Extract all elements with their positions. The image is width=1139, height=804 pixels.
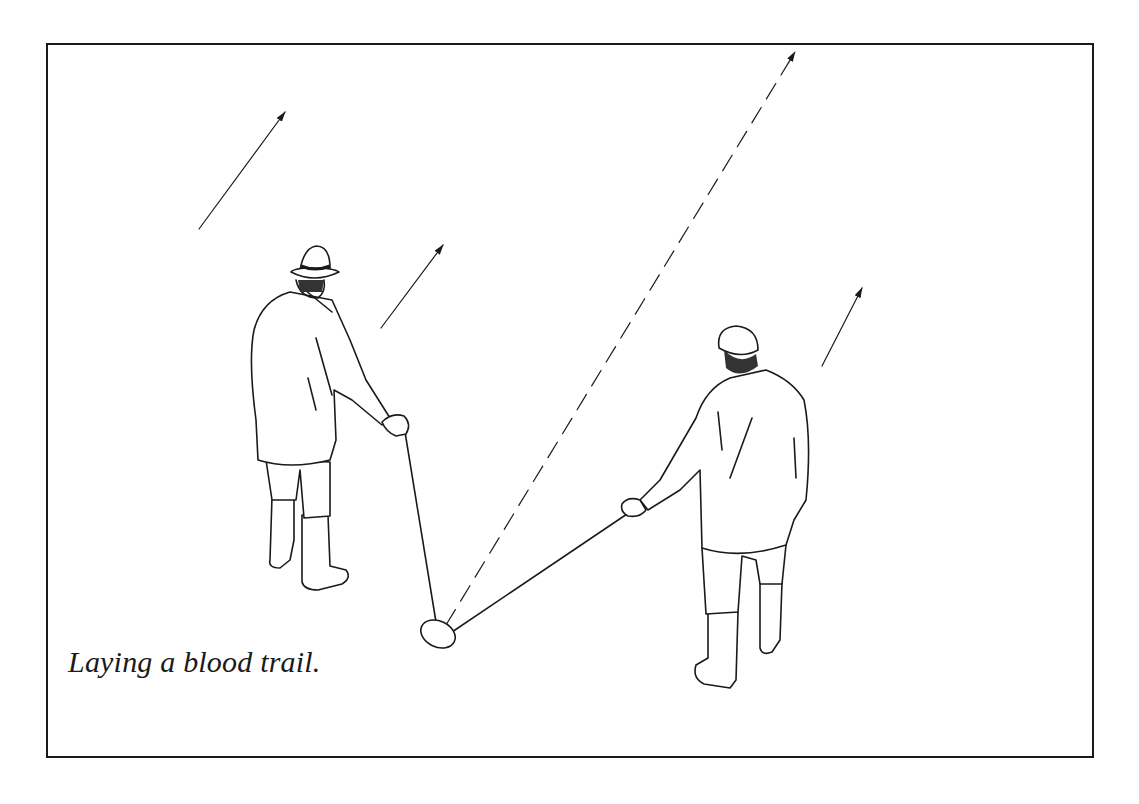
- direction-arrow-icon: [381, 245, 443, 328]
- left-stick: [405, 432, 436, 622]
- man-with-cap: [622, 326, 809, 688]
- blood-trail-illustration: [0, 0, 1139, 804]
- direction-arrow-icon: [822, 288, 862, 366]
- direction-arrow-icon: [199, 112, 285, 229]
- man-with-hat: [251, 246, 408, 590]
- scent-pad: [416, 615, 460, 654]
- figure-caption: Laying a blood trail.: [68, 645, 321, 679]
